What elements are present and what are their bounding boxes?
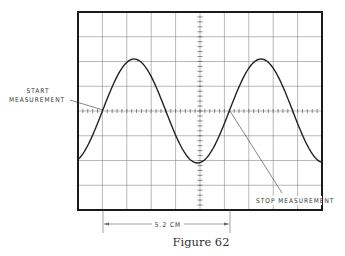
start-label-line2: MEASUREMENT [9,96,65,104]
stop-leader-line [230,111,282,193]
dimension-arrow-left-icon [104,222,109,225]
stop-label: STOP MEASUREMENT [256,197,334,205]
start-label-line1: START [27,87,50,95]
figure-caption: Figure 62 [172,235,229,249]
dimension-arrow-right-icon [224,222,229,225]
oscilloscope-figure: START MEASUREMENT STOP MEASUREMENT 5.2 C… [0,0,345,256]
dimension-label: 5.2 CM [155,221,181,229]
start-leader-line [70,100,103,110]
